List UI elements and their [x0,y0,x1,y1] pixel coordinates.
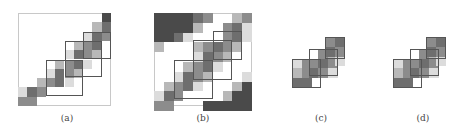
matrix-cell [242,82,252,92]
panel-c [292,37,346,104]
matrix-cell [164,33,174,43]
matrix-cell [203,101,213,111]
matrix-cell [174,23,184,33]
matrix-cell [174,13,184,23]
matrix-cell [164,13,174,23]
panel-label-c: (c) [315,113,327,123]
panel-label-b: (b) [197,113,210,123]
matrix-cell [213,101,223,111]
matrix-cell [154,42,164,52]
matrix-cell [92,22,101,31]
matrix-cell [154,91,164,101]
matrix-cell [242,23,252,33]
matrix-cell [232,82,242,92]
block-outline [325,37,345,59]
block-outline [426,37,446,59]
panel-d [393,37,447,104]
matrix-cell [164,23,174,33]
matrix-cell [164,101,174,111]
matrix-cell [18,97,27,106]
matrix-cell [193,13,203,23]
matrix-cell [164,82,174,92]
matrix-cell [183,23,193,33]
matrix-cell [27,87,36,96]
matrix-cell [183,13,193,23]
matrix-cell [37,78,46,87]
matrix-cell [183,33,193,43]
matrix-cell [37,87,46,96]
matrix-cell [242,33,252,43]
block-outline [83,32,111,59]
block-outline [213,31,242,60]
matrix-cell [232,13,242,23]
matrix-cell [232,91,242,101]
matrix-cell [232,101,242,111]
matrix-cell [102,13,111,22]
matrix-cell [242,91,252,101]
matrix-cell [154,23,164,33]
panel-label-d: (d) [417,113,430,123]
matrix-cell [223,101,233,111]
matrix-cell [18,87,27,96]
matrix-cell [174,33,184,43]
matrix-cell [242,13,252,23]
matrix-cell [154,101,164,111]
panel-label-a: (a) [61,113,73,123]
matrix-cell [102,22,111,31]
matrix-cell [203,13,213,23]
panel-a [18,13,111,106]
matrix-cell [154,33,164,43]
matrix-cell [223,91,233,101]
matrix-cell [154,13,164,23]
panel-b [154,13,252,106]
matrix-cell [27,97,36,106]
matrix-cell [242,72,252,82]
matrix-cell [164,91,174,101]
matrix-cell [242,101,252,111]
matrix-cell [193,23,203,33]
